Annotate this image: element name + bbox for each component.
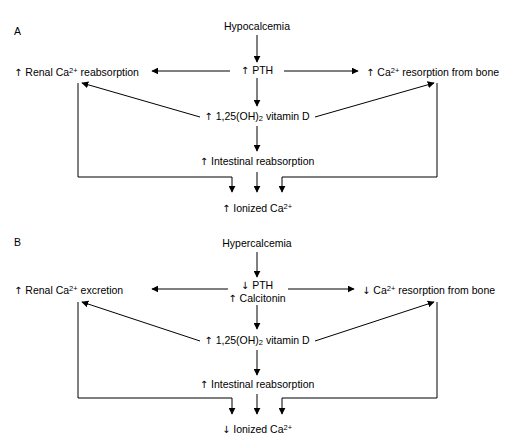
node-b-renal-tail: excretion <box>78 284 124 296</box>
a-edge-vitd-to-bone <box>315 83 434 117</box>
charge-superscript: 2+ <box>69 284 78 293</box>
up-arrow-icon: ↑ <box>222 203 230 214</box>
node-b-vitd-text: 1,25(OH) <box>216 334 259 346</box>
node-a-hormone: ↑ PTH <box>239 64 275 77</box>
node-b-pth-text: PTH <box>252 279 273 291</box>
node-a-trigger: Hypocalcemia <box>222 20 292 33</box>
node-a-bone-text: Ca <box>377 66 390 78</box>
charge-superscript: 2+ <box>283 423 292 432</box>
b-bracket-right <box>282 302 437 414</box>
node-a-bone-resorption: ↑ Ca2+ resorption from bone <box>364 64 501 79</box>
node-a-renal-text: Renal Ca <box>25 66 69 78</box>
node-b-bone-resorption: ↓ Ca2+ resorption from bone <box>360 282 497 297</box>
node-b-hormone-calcitonin: ↑ Calcitonin <box>226 292 287 305</box>
node-a-intestinal-reabsorption: ↑ Intestinal reabsorption <box>198 155 317 168</box>
charge-superscript: 2+ <box>283 202 292 211</box>
node-b-bone-tail: resorption from bone <box>395 284 495 296</box>
node-b-bone-text: Ca <box>373 284 386 296</box>
panel-label-b: B <box>14 237 21 248</box>
node-b-trigger-text: Hypercalcemia <box>222 237 291 249</box>
a-bracket-right <box>282 83 437 192</box>
node-a-hormone-text: PTH <box>252 64 273 76</box>
down-arrow-icon: ↓ <box>362 285 370 296</box>
node-b-vitd-tail: vitamin D <box>263 334 310 346</box>
up-arrow-icon: ↑ <box>14 67 22 78</box>
node-b-renal-text: Renal Ca <box>25 284 69 296</box>
down-arrow-icon: ↓ <box>222 424 230 435</box>
node-b-outcome-text: Ionized Ca <box>233 423 283 435</box>
panel-label-a: A <box>14 26 21 37</box>
charge-superscript: 2+ <box>69 66 78 75</box>
node-a-vitd-text: 1,25(OH) <box>216 110 259 122</box>
node-a-bone-tail: resorption from bone <box>399 66 499 78</box>
node-b-hormone-pth: ↓ PTH <box>239 279 275 292</box>
node-b-ionized-calcium: ↓ Ionized Ca2+ <box>220 421 294 436</box>
node-b-intestinal-reabsorption: ↑ Intestinal reabsorption <box>198 378 317 391</box>
up-arrow-icon: ↑ <box>241 65 249 76</box>
up-arrow-icon: ↑ <box>204 335 212 346</box>
down-arrow-icon: ↓ <box>241 280 249 291</box>
a-bracket-left <box>78 83 232 192</box>
calcium-homeostasis-figure: A Hypocalcemia ↑ PTH ↑ Renal Ca2+ reabso… <box>0 0 514 438</box>
node-b-intestinal-text: Intestinal reabsorption <box>211 378 314 390</box>
b-edge-vitd-to-renal <box>82 302 200 341</box>
up-arrow-icon: ↑ <box>200 156 208 167</box>
b-edge-vitd-to-bone <box>315 302 434 341</box>
node-a-vitd-tail: vitamin D <box>263 110 310 122</box>
up-arrow-icon: ↑ <box>204 111 212 122</box>
node-b-calcitonin-text: Calcitonin <box>240 292 286 304</box>
node-b-vitamin-d: ↑ 1,25(OH)2 vitamin D <box>202 334 311 349</box>
node-a-intestinal-text: Intestinal reabsorption <box>211 155 314 167</box>
node-a-renal-tail: reabsorption <box>78 66 139 78</box>
b-bracket-left <box>78 302 232 414</box>
up-arrow-icon: ↑ <box>228 293 236 304</box>
node-a-renal-reabsorption: ↑ Renal Ca2+ reabsorption <box>12 64 141 79</box>
node-b-trigger: Hypercalcemia <box>220 237 293 250</box>
node-a-vitamin-d: ↑ 1,25(OH)2 vitamin D <box>202 110 311 125</box>
node-b-renal-excretion: ↑ Renal Ca2+ excretion <box>12 282 125 297</box>
a-edge-vitd-to-renal <box>82 83 200 117</box>
up-arrow-icon: ↑ <box>200 379 208 390</box>
up-arrow-icon: ↑ <box>14 285 22 296</box>
node-a-trigger-text: Hypocalcemia <box>224 20 290 32</box>
up-arrow-icon: ↑ <box>366 67 374 78</box>
node-a-outcome-text: Ionized Ca <box>233 202 283 214</box>
node-a-ionized-calcium: ↑ Ionized Ca2+ <box>220 200 294 215</box>
